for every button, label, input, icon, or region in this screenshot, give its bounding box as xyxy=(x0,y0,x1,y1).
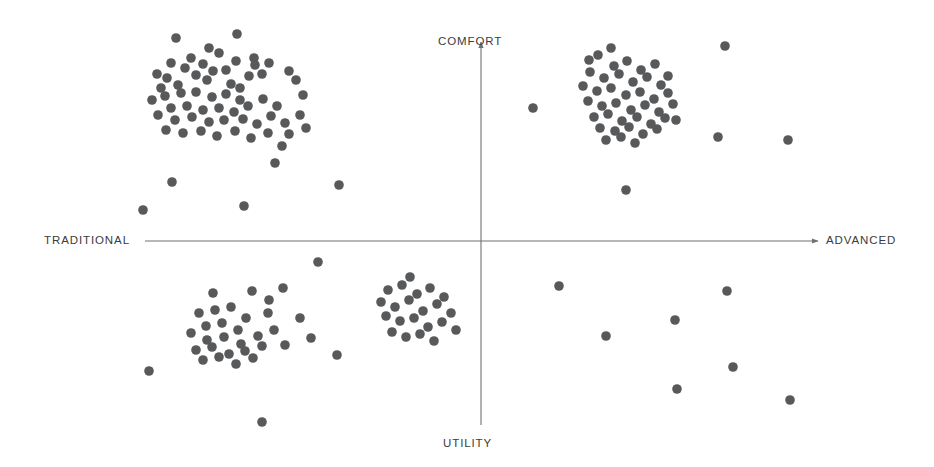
data-point xyxy=(191,87,201,97)
data-point xyxy=(578,81,588,91)
data-point xyxy=(180,63,190,73)
data-point xyxy=(621,185,631,195)
data-point xyxy=(390,302,400,312)
data-point xyxy=(219,115,229,125)
data-point xyxy=(266,111,276,121)
data-point xyxy=(198,59,208,69)
data-point xyxy=(616,132,626,142)
data-point xyxy=(722,286,732,296)
data-point xyxy=(247,286,257,296)
data-point xyxy=(178,128,188,138)
data-point xyxy=(252,119,262,129)
data-point xyxy=(439,292,449,302)
data-point xyxy=(301,123,311,133)
data-point xyxy=(603,109,613,119)
data-point xyxy=(243,101,253,111)
data-point xyxy=(230,126,240,136)
data-point xyxy=(423,322,433,332)
data-point xyxy=(263,308,273,318)
data-point xyxy=(257,69,267,79)
data-point xyxy=(583,96,593,106)
data-point xyxy=(186,328,196,338)
data-point xyxy=(221,65,231,75)
data-point xyxy=(219,332,229,342)
data-point xyxy=(191,70,201,80)
data-point xyxy=(280,340,290,350)
data-point xyxy=(170,115,180,125)
data-point xyxy=(231,56,241,66)
data-point xyxy=(785,395,795,405)
axis-label-comfort: COMFORT xyxy=(438,36,502,48)
data-point xyxy=(182,101,192,111)
data-point xyxy=(446,308,456,318)
data-point xyxy=(198,105,208,115)
data-point xyxy=(650,59,660,69)
data-point xyxy=(221,89,231,99)
data-point xyxy=(231,359,241,369)
data-point xyxy=(232,29,242,39)
data-point xyxy=(202,75,212,85)
data-point xyxy=(606,43,616,53)
data-point xyxy=(387,327,397,337)
axis-label-advanced: ADVANCED xyxy=(826,235,896,247)
data-point xyxy=(162,73,172,83)
data-point xyxy=(214,48,224,58)
data-point xyxy=(144,366,154,376)
data-point xyxy=(592,86,602,96)
data-point xyxy=(601,135,611,145)
data-point xyxy=(167,177,177,187)
data-point xyxy=(437,317,447,327)
data-point xyxy=(204,117,214,127)
data-point xyxy=(277,141,287,151)
data-point xyxy=(235,95,245,105)
data-point xyxy=(244,71,254,81)
data-point xyxy=(171,33,181,43)
data-point xyxy=(246,133,256,143)
data-point xyxy=(284,129,294,139)
data-point xyxy=(212,131,222,141)
data-point xyxy=(257,341,267,351)
data-point xyxy=(376,297,386,307)
data-point xyxy=(152,69,162,79)
data-point xyxy=(611,98,621,108)
data-point xyxy=(597,101,607,111)
data-point xyxy=(295,110,305,120)
data-point xyxy=(263,128,273,138)
data-point xyxy=(198,355,208,365)
data-point xyxy=(187,112,197,122)
data-point xyxy=(628,77,638,87)
data-point xyxy=(204,43,214,53)
data-point xyxy=(166,58,176,68)
data-point xyxy=(381,311,391,321)
data-points-group xyxy=(138,29,795,427)
data-point xyxy=(264,295,274,305)
data-point xyxy=(250,60,260,70)
data-point xyxy=(656,80,666,90)
data-point xyxy=(412,289,422,299)
data-point xyxy=(280,118,290,128)
data-point xyxy=(415,329,425,339)
data-point xyxy=(295,313,305,323)
data-point xyxy=(451,325,461,335)
data-point xyxy=(429,336,439,346)
data-point xyxy=(186,53,196,63)
data-point xyxy=(226,79,236,89)
data-point xyxy=(395,316,405,326)
data-point xyxy=(332,350,342,360)
data-point xyxy=(270,158,280,168)
data-point xyxy=(224,349,234,359)
data-point xyxy=(240,346,250,356)
data-point xyxy=(248,353,258,363)
data-point xyxy=(649,94,659,104)
data-point xyxy=(194,308,204,318)
data-point xyxy=(425,283,435,293)
data-point xyxy=(614,69,624,79)
data-point xyxy=(233,325,243,335)
data-point xyxy=(668,99,678,109)
data-point xyxy=(432,299,442,309)
data-point xyxy=(621,90,631,100)
data-point xyxy=(264,58,274,68)
data-point xyxy=(663,88,673,98)
data-point xyxy=(217,318,227,328)
data-point xyxy=(306,333,316,343)
